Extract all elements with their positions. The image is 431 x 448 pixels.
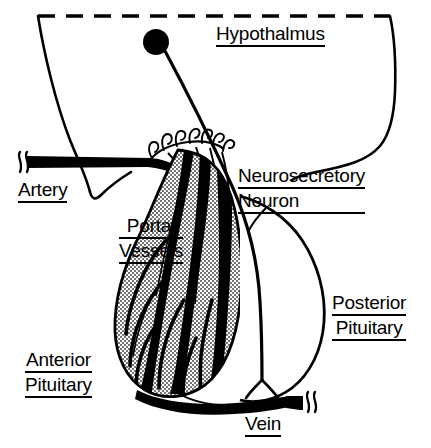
- label-anterior-pituitary-line-1: Anterior: [25, 350, 92, 373]
- label-portal-vessels-line-1: Portal: [119, 216, 183, 239]
- label-posterior-pituitary-line-1: Posterior: [332, 293, 406, 316]
- vein-vessel: [286, 392, 316, 412]
- label-hypothalmus-line-1: Hypothalmus: [216, 24, 325, 47]
- artery-vessel: [19, 152, 176, 174]
- posterior-pituitary-lobe: [240, 196, 324, 402]
- label-posterior-pituitary: Posterior Pituitary: [332, 293, 406, 343]
- label-anterior-pituitary: Anterior Pituitary: [25, 350, 92, 400]
- label-neurosecretory-neuron-line-2: Neuron: [238, 191, 365, 214]
- posterior-pituitary-outline: [240, 196, 324, 402]
- artery-trunk: [27, 156, 176, 174]
- artery-break-mark-2: [26, 152, 28, 172]
- label-vein: Vein: [245, 414, 281, 439]
- label-hypothalmus: Hypothalmus: [216, 24, 325, 49]
- hypothalamus-left-hook: [90, 172, 131, 198]
- pituitary-hypothalamus-diagram: Hypothalmus Neurosecretory Neuron Artery…: [0, 0, 431, 448]
- vein-trunk-end: [300, 396, 303, 410]
- label-portal-vessels: Portal Vessels: [119, 216, 183, 266]
- label-neurosecretory-neuron-line-1: Neurosecretory: [238, 166, 365, 189]
- artery-break-mark-1: [19, 152, 21, 172]
- label-vein-line-1: Vein: [245, 414, 281, 437]
- label-posterior-pituitary-line-2: Pituitary: [332, 318, 406, 341]
- label-artery: Artery: [18, 180, 67, 205]
- vein-trunk: [286, 396, 300, 410]
- vein-break-mark-2: [314, 392, 316, 412]
- label-neurosecretory-neuron: Neurosecretory Neuron: [238, 166, 365, 216]
- label-artery-line-1: Artery: [18, 180, 67, 203]
- vein-break-mark-1: [307, 392, 309, 412]
- label-portal-vessels-line-2: Vessels: [119, 241, 183, 264]
- label-anterior-pituitary-line-2: Pituitary: [25, 375, 92, 398]
